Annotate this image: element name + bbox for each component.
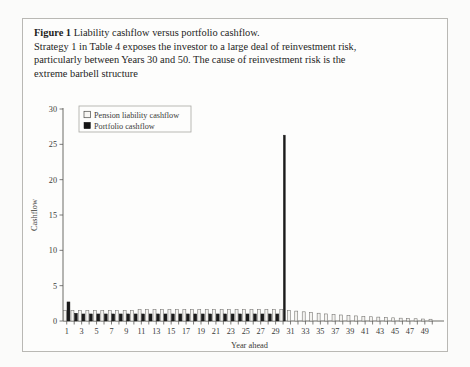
chart-legend: Pension liability cashflowPortfolio cash… [79,106,191,132]
legend-swatch-liability [84,111,90,117]
x-axis-group: 1357911131517192123252729313335373941434… [63,321,444,336]
x-axis-tick-label: 15 [167,327,175,336]
bar-portfolio-cashflow [142,314,145,321]
bar-pension-liability [213,310,216,321]
bar-pension-liability [429,319,432,321]
bar-pension-liability [295,311,298,321]
bar-pension-liability [198,310,201,321]
bar-pension-liability [280,310,283,321]
x-axis-tick-label: 33 [301,327,309,336]
bar-pension-liability [235,310,238,321]
bar-portfolio-cashflow [216,314,219,321]
bar-portfolio-cashflow [201,314,204,321]
figure-body-line-1: Strategy 1 in Table 4 exposes the invest… [34,41,356,52]
x-axis-tick-label: 3 [80,327,84,336]
bar-pension-liability [190,310,193,321]
bar-pension-liability [399,318,402,321]
y-axis-tick-label: 25 [49,140,57,149]
bar-portfolio-cashflow [246,314,249,321]
bar-pension-liability [131,310,134,321]
bar-pension-liability [257,310,260,321]
x-axis-tick-label: 27 [257,327,265,336]
bar-pension-liability [332,315,335,321]
bar-portfolio-cashflow [104,314,107,321]
bar-pension-liability [392,318,395,321]
bar-pension-liability [93,310,96,321]
x-axis-tick-label: 47 [406,327,414,336]
legend-swatch-portfolio [84,122,90,128]
chart-svg: Cashflow 051015202530 135791113151719212… [23,95,449,351]
x-axis-title-group: Year ahead [231,341,269,350]
bar-pension-liability [272,310,275,321]
y-axis-tick-label: 5 [53,282,57,291]
bar-portfolio-cashflow [239,314,242,321]
x-axis-tick-label: 25 [242,327,250,336]
x-axis-tick-label: 1 [65,327,69,336]
bar-pension-liability [414,319,417,321]
bar-pension-liability [377,317,380,321]
bars-portfolio-cashflow [67,135,285,321]
y-axis-tick-label: 0 [53,317,57,326]
bar-pension-liability [384,317,387,321]
bar-pension-liability [153,310,156,321]
bar-portfolio-cashflow [149,314,152,321]
x-axis-tick-label: 13 [152,327,160,336]
bar-pension-liability [369,317,372,321]
figure-title: Liability cashflow versus portfolio cash… [74,27,260,38]
x-axis-tick-label: 29 [272,327,280,336]
y-axis-tick-label: 30 [49,105,57,114]
bar-pension-liability [101,310,104,321]
x-axis-tick-label: 37 [331,327,339,336]
bar-portfolio-cashflow [157,314,160,321]
bar-portfolio-cashflow [231,314,234,321]
bar-pension-liability [63,310,66,321]
bar-pension-liability [71,310,74,321]
bar-portfolio-cashflow [209,314,212,321]
bar-pension-liability [220,310,223,321]
bar-pension-liability [362,316,365,321]
bar-portfolio-cashflow [261,314,264,321]
bar-pension-liability [250,310,253,321]
x-axis-tick-label: 19 [197,327,205,336]
bar-pension-liability [310,313,313,321]
bar-pension-liability [78,310,81,321]
bar-pension-liability [205,310,208,321]
bar-pension-liability [243,310,246,321]
bar-pension-liability [407,318,410,321]
bar-pension-liability [228,310,231,321]
bar-pension-liability [168,310,171,321]
bar-pension-liability [160,310,163,321]
x-axis-tick-label: 9 [124,327,128,336]
bar-portfolio-cashflow [268,314,271,321]
bar-portfolio-cashflow [283,135,285,321]
bar-portfolio-cashflow [89,314,92,321]
x-axis-tick-label: 43 [376,327,384,336]
bar-pension-liability [86,310,89,321]
bar-pension-liability [116,310,119,321]
bar-portfolio-cashflow [119,314,122,321]
bar-portfolio-cashflow [134,314,137,321]
bar-portfolio-cashflow [171,314,174,321]
bar-portfolio-cashflow [194,314,197,321]
y-axis-tick-label: 20 [49,176,57,185]
bar-pension-liability [287,310,290,321]
bar-portfolio-cashflow [67,302,70,321]
figure-caption: Figure 1 Liability cashflow versus portf… [34,26,438,80]
x-axis-tick-label: 39 [346,327,354,336]
bar-portfolio-cashflow [179,314,182,321]
figure-container: Figure 1 Liability cashflow versus portf… [22,18,448,352]
bar-pension-liability [146,310,149,321]
y-axis-title-group: Cashflow [30,198,39,231]
bar-portfolio-cashflow [224,314,227,321]
bar-pension-liability [340,315,343,321]
figure-body-line-2: particularly between Years 30 and 50. Th… [34,54,345,65]
y-axis-tick-label: 15 [49,211,57,220]
bar-pension-liability [325,314,328,321]
y-axis-group: 051015202530 [49,105,63,326]
x-axis-tick-label: 49 [421,327,429,336]
y-axis-tick-label: 10 [49,246,57,255]
x-axis-tick-label: 41 [361,327,369,336]
x-axis-tick-label: 21 [212,327,220,336]
bar-portfolio-cashflow [276,314,279,321]
bar-pension-liability [317,313,320,321]
